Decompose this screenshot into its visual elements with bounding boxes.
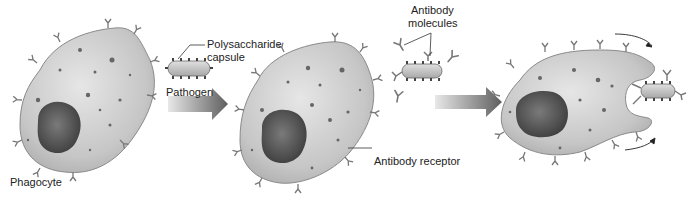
diagram-stage: Phagocyte Polysaccharide capsule Pathoge…	[0, 0, 700, 203]
pathogen-1	[165, 45, 213, 79]
polysaccharide-capsule-label-line2: capsule	[207, 51, 245, 64]
antibody-molecules-label-line2: molecules	[408, 17, 458, 30]
nucleus-icon	[516, 91, 568, 137]
curved-arrow-bottom-icon	[625, 139, 654, 150]
pathogen-label: Pathogen	[166, 86, 213, 99]
capsule-leader-line	[178, 45, 205, 59]
antibody-receptor-label: Antibody receptor	[374, 155, 460, 168]
phagocyte-label: Phagocyte	[10, 176, 62, 189]
phagocyte-cell-1	[13, 19, 160, 181]
antibody-molecules-label-line1: Antibody	[411, 4, 454, 17]
diagram-canvas	[0, 0, 700, 203]
pathogen-with-antibodies	[392, 33, 458, 103]
phagocyte-cell-3	[491, 40, 655, 165]
polysaccharide-capsule-label-line1: Polysaccharide	[207, 38, 282, 51]
antibody-leader-line	[404, 33, 431, 56]
phagocyte-cell-2	[233, 33, 383, 193]
curved-arrow-top-icon	[615, 34, 652, 46]
